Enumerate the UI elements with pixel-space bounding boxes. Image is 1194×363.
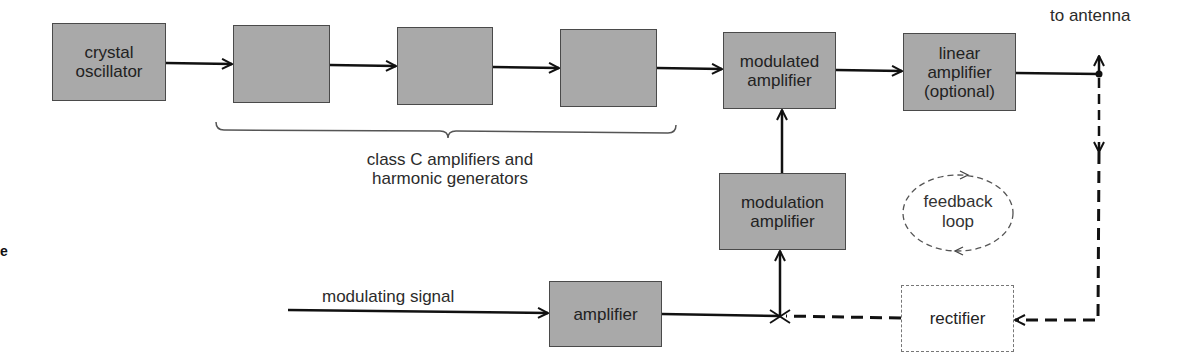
feedback-down-lower [1015,152,1099,320]
crystal-oscillator-block: crystal oscillator [52,23,166,101]
line-amplifier-to-junction [662,314,780,316]
class-c-caption: class C amplifiers and harmonic generato… [330,150,570,188]
arrow-cc3-to-modulated [657,68,722,69]
class-c-brace [216,122,676,138]
arrow-osc-to-cc1 [166,63,232,64]
to-antenna-label: to antenna [1050,6,1160,25]
stray-letter-fragment: e [0,243,8,259]
arrow-signal-to-amplifier [288,310,548,313]
feedback-loop-label: feedback loop [903,192,1013,232]
transmitter-block-diagram: crystal oscillator modulated amplifier l… [0,0,1194,363]
class-c-amplifier-block-1 [233,25,330,103]
line-linear-to-junction [1016,73,1099,74]
arrow-cc1-to-cc2 [330,65,396,66]
feedback-rectifier-to-junction [786,316,901,318]
amplifier-block: amplifier [549,281,662,347]
class-c-amplifier-block-3 [560,29,657,107]
modulated-amplifier-block: modulated amplifier [723,32,836,109]
arrow-modulated-to-linear [836,70,902,71]
linear-amplifier-block: linear amplifier (optional) [903,33,1016,111]
class-c-amplifier-block-2 [397,27,493,105]
rectifier-block: rectifier [901,285,1014,352]
modulation-amplifier-block: modulation amplifier [719,173,846,250]
arrow-cc2-to-cc3 [493,67,559,68]
modulating-signal-label: modulating signal [322,287,492,306]
